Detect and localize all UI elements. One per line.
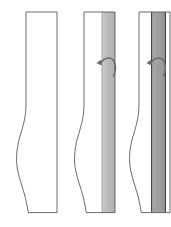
- stages-diagram: [0, 0, 171, 227]
- material-band: [102, 12, 116, 213]
- panel-stage-3[interactable]: [130, 12, 170, 213]
- panel-stage-2[interactable]: [75, 12, 116, 213]
- panel-stage-1[interactable]: [17, 12, 57, 213]
- material-band: [151, 12, 166, 213]
- vessel-profile-outline: [17, 12, 57, 213]
- figure-container: Stage 1 Stage 2 Stage 3 Three-stage vess…: [0, 0, 171, 227]
